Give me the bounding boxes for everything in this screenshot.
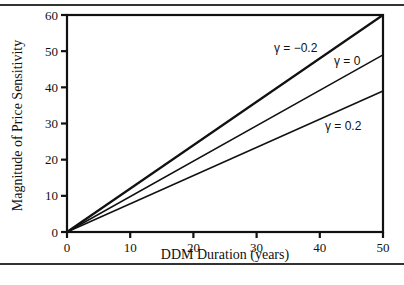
- y-tick-label: 30: [45, 116, 58, 131]
- y-tick-label: 40: [45, 80, 58, 95]
- series-annotation: γ = 0.2: [325, 119, 362, 133]
- y-tick-label: 60: [45, 8, 58, 23]
- x-tick-label: 40: [313, 240, 326, 255]
- series-annotation: γ = 0: [334, 54, 361, 68]
- x-tick-label: 10: [124, 240, 137, 255]
- x-axis-title: DDM Duration (years): [161, 247, 290, 263]
- x-tick-label: 0: [64, 240, 71, 255]
- series-line: [67, 55, 383, 232]
- y-axis-title: Magnitude of Price Sensitivity: [10, 40, 25, 211]
- y-tick-label: 0: [52, 225, 59, 240]
- y-tick-label: 50: [45, 44, 58, 59]
- x-tick-label: 50: [377, 240, 390, 255]
- y-tick-label: 20: [45, 152, 58, 167]
- series-annotation: γ = −0.2: [274, 41, 318, 55]
- y-tick-label: 10: [45, 188, 58, 203]
- series-line: [67, 91, 383, 232]
- price-sensitivity-chart: 010203040506001020304050DDM Duration (ye…: [0, 0, 404, 285]
